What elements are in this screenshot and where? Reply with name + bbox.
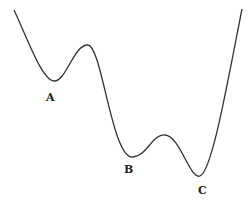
label-a: A (45, 91, 55, 104)
label-c: C (198, 184, 207, 197)
label-b: B (124, 163, 133, 176)
energy-landscape-diagram: A B C (0, 0, 249, 203)
